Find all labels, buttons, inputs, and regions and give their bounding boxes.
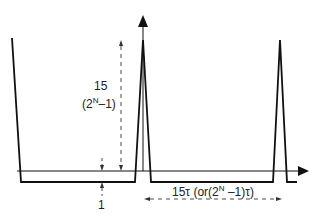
y-axis-arrow-icon xyxy=(138,15,148,27)
height-value-label: 15 xyxy=(94,80,107,92)
period-arrow-right-icon xyxy=(276,197,282,201)
height-arrow-up-icon xyxy=(119,40,123,46)
signal-waveform xyxy=(12,38,297,182)
period-prefix: 15τ (or(2 xyxy=(172,185,219,199)
low-level-arrow-down-icon xyxy=(100,165,104,171)
height-formula-suffix: –1) xyxy=(98,97,115,111)
period-suffix: –1)τ) xyxy=(225,185,254,199)
height-arrow-down-icon xyxy=(119,165,123,171)
pulse-diagram xyxy=(0,0,333,221)
height-formula-prefix: (2 xyxy=(82,97,93,111)
x-axis-arrow-icon xyxy=(298,166,309,176)
height-formula-label: (2N–1) xyxy=(82,97,116,110)
period-arrow-left-icon xyxy=(144,197,150,201)
low-level-label: 1 xyxy=(98,199,105,211)
period-label: 15τ (or(2N –1)τ) xyxy=(172,185,254,198)
